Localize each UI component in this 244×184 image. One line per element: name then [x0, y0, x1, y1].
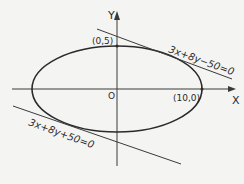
ellipse-diagram: Y X O (0,5) (10,0) 3x+8y−50=0 3x+8y+50=0	[0, 0, 244, 184]
y-axis-arrow-icon	[114, 11, 120, 20]
point-10-0-marker	[201, 88, 204, 91]
y-axis-label: Y	[107, 9, 115, 22]
point-0-5-label: (0,5)	[92, 36, 113, 46]
point-0-5-marker	[116, 45, 119, 48]
x-axis-arrow-icon	[228, 86, 236, 92]
x-axis-label: X	[232, 94, 240, 107]
point-10-0-label: (10,0)	[173, 93, 200, 103]
upper-tangent-equation: 3x+8y−50=0	[167, 44, 235, 78]
lower-tangent-line	[13, 106, 181, 164]
origin-label: O	[108, 91, 115, 101]
